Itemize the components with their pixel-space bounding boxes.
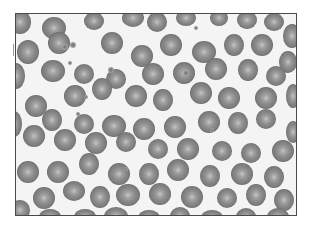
red-blood-cell <box>25 95 47 117</box>
platelet <box>62 44 68 50</box>
red-blood-cell <box>63 181 85 201</box>
red-blood-cell <box>148 139 168 159</box>
red-blood-cell <box>142 63 164 85</box>
red-blood-cell <box>41 60 65 82</box>
red-blood-cell <box>238 59 258 81</box>
red-blood-cell <box>256 109 276 129</box>
platelet <box>108 67 114 73</box>
blood-smear-image <box>16 14 296 215</box>
red-blood-cell <box>181 186 203 208</box>
red-blood-cell <box>23 125 45 147</box>
red-blood-cell <box>177 138 199 160</box>
red-blood-cell <box>79 153 99 175</box>
platelet <box>124 167 128 171</box>
platelet <box>210 128 214 132</box>
red-blood-cell <box>139 163 159 185</box>
red-blood-cell <box>218 87 240 109</box>
red-blood-cell <box>101 32 123 54</box>
red-blood-cell <box>108 163 130 185</box>
platelet <box>76 112 80 116</box>
red-blood-cell <box>228 112 248 134</box>
red-blood-cell <box>153 89 173 111</box>
platelet <box>183 70 189 76</box>
platelet <box>194 26 198 30</box>
red-blood-cell <box>264 166 284 188</box>
red-blood-cell <box>133 118 155 140</box>
platelet <box>68 61 72 65</box>
red-blood-cell <box>224 34 244 56</box>
red-blood-cell <box>90 186 110 208</box>
red-blood-cell <box>205 58 227 80</box>
red-blood-cell <box>246 184 266 206</box>
red-blood-cell <box>47 161 69 183</box>
red-blood-cell <box>266 66 286 86</box>
red-blood-cell <box>217 188 237 208</box>
red-blood-cell <box>116 132 136 152</box>
red-blood-cell <box>17 40 39 64</box>
red-blood-cell <box>200 165 220 187</box>
red-blood-cell <box>125 85 147 107</box>
red-blood-cell <box>241 143 261 163</box>
page <box>0 0 312 229</box>
red-blood-cell <box>149 183 171 205</box>
red-blood-cell <box>85 132 107 154</box>
platelet <box>70 42 76 48</box>
edge-mark <box>13 44 14 56</box>
red-blood-cell <box>255 87 277 109</box>
red-blood-cell <box>231 163 253 185</box>
red-blood-cell <box>74 114 94 134</box>
red-blood-cell <box>64 85 86 107</box>
red-blood-cell <box>42 109 62 131</box>
red-blood-cell <box>160 34 182 56</box>
red-blood-cell <box>190 82 212 104</box>
red-blood-cell <box>48 32 70 54</box>
red-blood-cell <box>54 129 76 151</box>
platelet <box>84 95 88 99</box>
red-blood-cell <box>164 116 186 138</box>
red-blood-cell <box>167 159 189 181</box>
red-blood-cell <box>74 64 94 84</box>
red-blood-cell <box>116 184 140 206</box>
red-blood-cell <box>33 187 55 209</box>
red-blood-cell <box>92 78 112 100</box>
red-blood-cell <box>17 161 39 183</box>
red-blood-cell <box>212 141 232 161</box>
red-blood-cell <box>251 34 273 56</box>
red-blood-cell <box>198 111 220 133</box>
red-blood-cell <box>274 189 294 211</box>
micrograph-frame <box>15 13 297 216</box>
red-blood-cell <box>272 140 294 162</box>
